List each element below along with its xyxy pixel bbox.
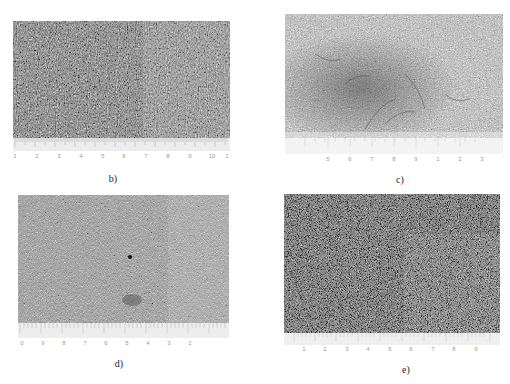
ruler-label: 3 xyxy=(480,156,483,162)
ruler-label: 5 xyxy=(388,346,391,352)
ruler-scale-c xyxy=(285,138,503,154)
ruler-label: 8 xyxy=(452,346,455,352)
ruler-label: 3 xyxy=(345,346,348,352)
ruler-labels-e: 1 2 3 4 5 6 7 8 9 xyxy=(284,346,500,356)
micrograph-e xyxy=(284,194,500,333)
ruler-label: 2 xyxy=(323,346,326,352)
panel-caption-e: e) xyxy=(402,364,410,375)
ruler-label: 1 xyxy=(302,346,305,352)
figure-panel-c: 5 6 7 8 9 1 2 3 c) xyxy=(0,0,510,192)
ruler-label: 9 xyxy=(414,156,417,162)
ruler-label: 4 xyxy=(366,346,369,352)
ruler-label: 1 xyxy=(436,156,439,162)
panel-caption-c: c) xyxy=(396,174,404,185)
ruler-label: 8 xyxy=(392,156,395,162)
ruler-label: 6 xyxy=(409,346,412,352)
ruler-label: 9 xyxy=(474,346,477,352)
figure-panel-e: 1 2 3 4 5 6 7 8 9 e) xyxy=(0,192,510,384)
ruler-labels-c: 5 6 7 8 9 1 2 3 xyxy=(285,156,503,166)
ruler-label: 7 xyxy=(431,346,434,352)
micrograph-c xyxy=(285,14,503,138)
ruler-label: 5 xyxy=(326,156,329,162)
ruler-label: 2 xyxy=(458,156,461,162)
ruler-label: 7 xyxy=(370,156,373,162)
ruler-scale-e xyxy=(284,333,500,345)
ruler-label: 6 xyxy=(348,156,351,162)
